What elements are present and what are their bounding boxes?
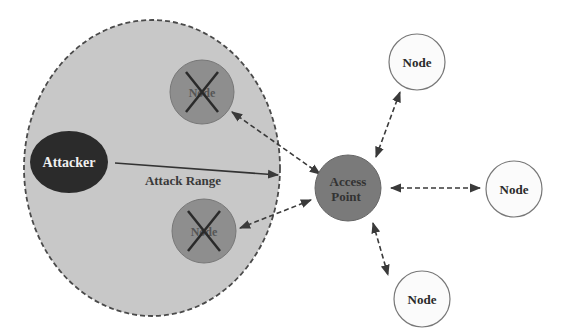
svg-text:Node: Node — [408, 292, 437, 307]
compromised-node: Node — [172, 199, 236, 263]
access-point: Access Point — [315, 155, 381, 221]
svg-text:Node: Node — [403, 55, 432, 70]
network-diagram: Attacker Attack Range Node Node Access P… — [0, 0, 565, 335]
compromised-node: Node — [170, 60, 234, 124]
node-top: Node — [389, 34, 445, 90]
node-bottom: Node — [394, 271, 450, 327]
attacker-label: Attacker — [43, 155, 96, 170]
link-ap-node-bottom — [373, 223, 388, 275]
svg-text:Node: Node — [500, 182, 529, 197]
link-ap-node-top — [376, 92, 400, 157]
svg-text:Access: Access — [330, 174, 367, 189]
attack-range-label: Attack Range — [145, 173, 221, 188]
svg-text:Point: Point — [331, 189, 361, 204]
node-right: Node — [486, 161, 542, 217]
